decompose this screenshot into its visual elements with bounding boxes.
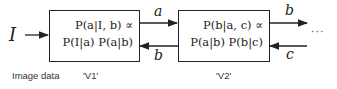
edge-label-b-feedback: b <box>154 47 163 63</box>
block-v2: P(b|a, c) ∝ P(a|b) P(b|c) <box>178 10 270 62</box>
edge-label-a: a <box>154 3 162 19</box>
v2-caption: 'V2' <box>216 70 231 81</box>
v2-equation-line1: P(b|a, c) ∝ <box>203 18 263 32</box>
block-v1: P(a|I, b) ∝ P(I|a) P(a|b) <box>49 10 140 62</box>
v1-equation-line2: P(I|a) P(a|b) <box>63 35 133 49</box>
edge-label-c: c <box>286 46 294 62</box>
continuation-ellipsis: ··· <box>311 26 325 39</box>
edge-label-b-out: b <box>285 2 294 18</box>
v1-equation-line1: P(a|I, b) ∝ <box>75 18 133 32</box>
v1-caption: 'V1' <box>83 70 98 81</box>
v2-equation-line2: P(a|b) P(b|c) <box>190 35 263 49</box>
input-caption: Image data <box>12 70 60 81</box>
input-symbol: I <box>9 24 16 45</box>
